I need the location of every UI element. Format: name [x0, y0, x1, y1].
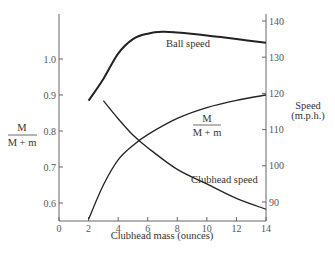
- left-y-tick-label: 0.8: [44, 126, 57, 137]
- left-axis-label-numerator: M: [17, 122, 27, 133]
- fraction-label-denominator: M + m: [193, 127, 222, 138]
- left-y-tick-label: 1.0: [44, 54, 57, 65]
- x-tick-label: 0: [57, 223, 62, 234]
- left-axis-label-denominator: M + m: [8, 137, 37, 148]
- fraction-label-numerator: M: [202, 113, 212, 124]
- x-axis-label: Clubhead mass (ounces): [111, 230, 214, 242]
- x-tick-label: 12: [231, 223, 241, 234]
- left-y-tick-label: 0.6: [44, 198, 57, 209]
- clubhead-speed-curve: [103, 101, 266, 210]
- right-y-tick-label: 120: [269, 88, 284, 99]
- mass-ratio-curve: [89, 95, 266, 219]
- clubhead-speed-label: Clubhead speed: [191, 174, 259, 185]
- right-y-tick-label: 130: [269, 52, 284, 63]
- left-y-tick-label: 0.9: [44, 90, 57, 101]
- x-tick-label: 2: [86, 223, 91, 234]
- right-y-tick-label: 110: [269, 124, 284, 135]
- left-y-tick-label: 0.7: [44, 162, 57, 173]
- golf-clubhead-chart: 02468101214 0.60.70.80.91.0 901001101201…: [0, 0, 335, 254]
- x-tick-label: 14: [261, 223, 271, 234]
- right-y-tick-label: 100: [269, 160, 284, 171]
- right-y-tick-label: 140: [269, 16, 284, 27]
- right-axis-label-line2: (m.p.h.): [291, 110, 325, 122]
- ball-speed-label: Ball speed: [166, 38, 211, 49]
- right-y-tick-label: 90: [269, 197, 279, 208]
